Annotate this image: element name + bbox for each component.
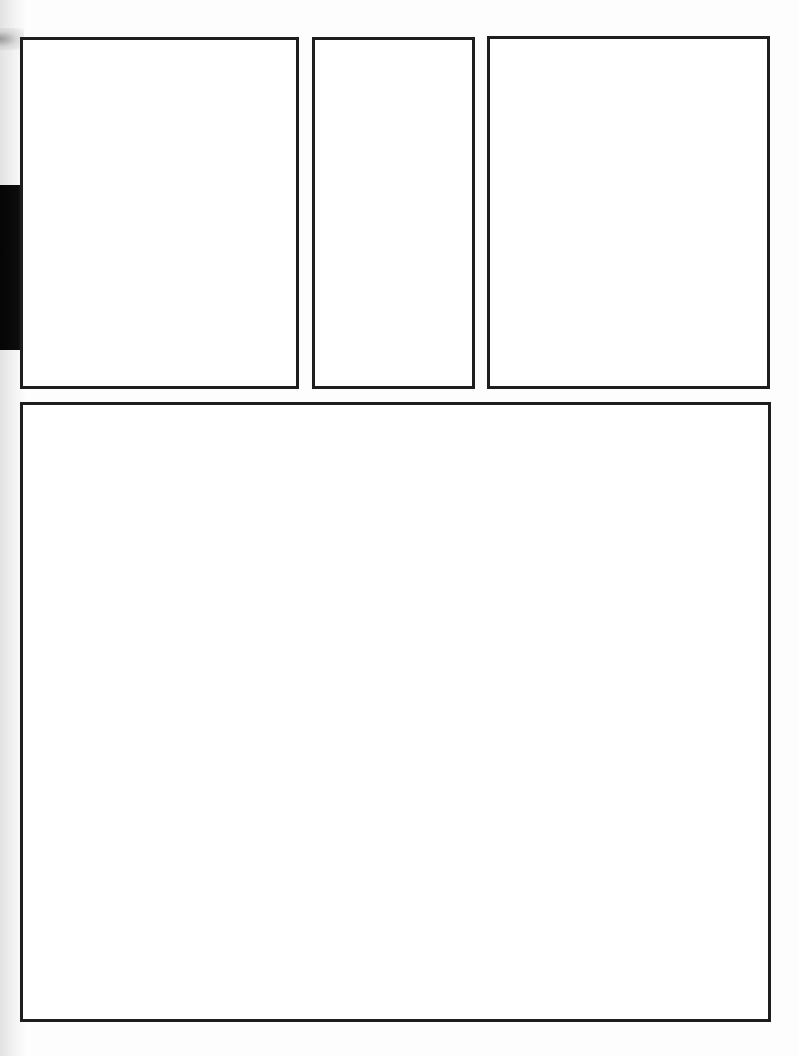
binding-dark-edge [0,185,22,350]
panel-4 [20,402,771,1022]
panel-3 [487,36,770,389]
panel-1 [20,37,299,389]
panel-2 [312,37,475,389]
